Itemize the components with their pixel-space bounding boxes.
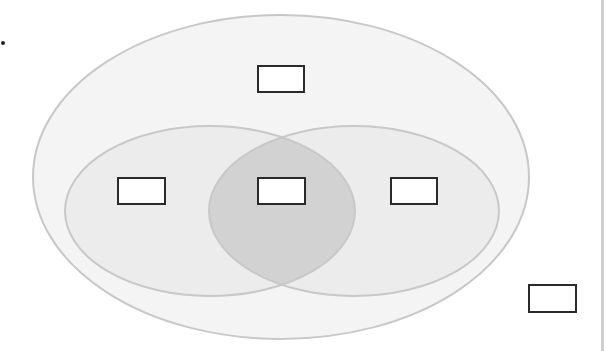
page-edge-divider — [601, 0, 604, 351]
venn-svg — [0, 0, 606, 351]
label-box-outer-only[interactable] — [257, 65, 305, 93]
venn-diagram — [0, 0, 606, 351]
label-box-outside[interactable] — [528, 284, 577, 313]
label-box-intersection[interactable] — [257, 177, 306, 205]
bullet-dot — [1, 41, 5, 45]
label-box-left-only[interactable] — [117, 177, 166, 205]
label-box-right-only[interactable] — [390, 177, 438, 205]
